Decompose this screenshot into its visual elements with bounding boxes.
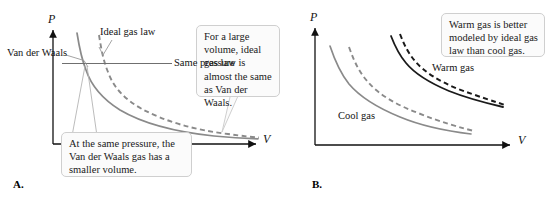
panel-a-x-axis-label: V — [263, 132, 270, 147]
same-pressure-callout: At the same pressure, the Van der Waals … — [61, 132, 192, 177]
panel-a-ideal-leader — [103, 40, 112, 55]
panel-a-label: A. — [13, 178, 24, 190]
panel-a-same-pressure-label: Same pressure — [174, 57, 235, 68]
panel-a-callout-leader-right — [87, 66, 97, 136]
panel-b-warm-gas-label: Warm gas — [432, 62, 474, 73]
panel-a-ideal-gas-law-label: Ideal gas law — [100, 26, 155, 37]
panel-a-callout-leader-left — [72, 66, 85, 136]
panel-a-y-axis-label: P — [48, 12, 55, 27]
panel-a-van-der-waals-label: Van der Waals — [7, 47, 67, 58]
gas-law-figure: P V Ideal gas law Van der Waals Same pre… — [0, 0, 556, 204]
panel-b-x-axis-label: V — [518, 133, 525, 148]
warm-gas-callout: Warm gas is better modeled by ideal gas … — [441, 13, 545, 57]
panel-b-label: B. — [312, 178, 322, 190]
panel-b-cool-gas-label: Cool gas — [338, 110, 375, 121]
panel-b-y-axis-label: P — [310, 10, 317, 25]
